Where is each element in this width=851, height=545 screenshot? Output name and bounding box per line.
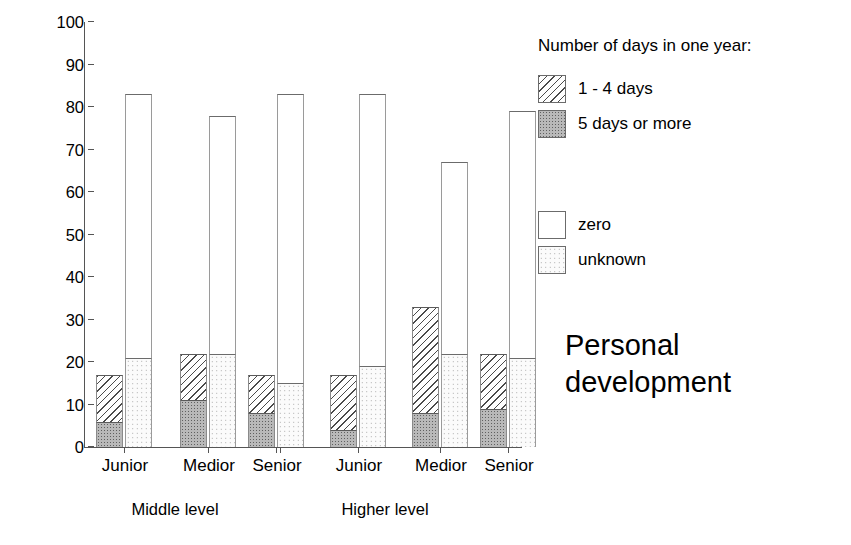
swatch-zero-icon [538,211,566,239]
y-tick-label: 20 [28,357,84,367]
bar-zero-unknown-stack [209,116,236,448]
bar-zero-unknown-stack [359,94,386,447]
segment-unknown [441,354,468,448]
y-tick-label: 100 [28,17,84,27]
x-tick-mark [358,447,359,453]
segment-zero [359,94,386,366]
legend-item-1-4-days: 1 - 4 days [538,75,848,103]
bar-zero-unknown-stack [441,162,468,447]
bar-zero-unknown-stack [277,94,304,447]
x-axis-category-label: Junior [314,456,404,476]
x-tick-mark [276,447,277,453]
bar-zero-unknown-stack [125,94,152,447]
bar-days-stack [96,375,123,447]
legend-label-5-days-or-more: 5 days or more [578,114,691,134]
x-axis-category-label: Senior [232,456,322,476]
legend-item-5-days-or-more: 5 days or more [538,110,848,138]
legend-label-zero: zero [578,215,611,235]
bar-group [96,22,152,447]
segment-zero [509,111,536,358]
segment-unknown [125,358,152,447]
segment-5-days-or-more [96,422,123,448]
bar-group [480,22,536,447]
legend-label-unknown: unknown [578,250,646,270]
bar-zero-unknown-stack [509,111,536,447]
bar-days-stack [480,354,507,448]
bar-days-stack [412,307,439,447]
x-tick-mark [124,447,125,453]
x-axis-group-label: Middle level [90,500,260,519]
segment-1-4-days [180,354,207,401]
y-tick-label: 80 [28,102,84,112]
x-axis-group-label: Higher level [300,500,470,519]
plot-bars [85,22,520,447]
segment-1-4-days [248,375,275,413]
segment-unknown [509,358,536,447]
legend-title: Number of days in one year: [538,36,848,56]
y-tick-label: 40 [28,272,84,282]
bar-group [180,22,236,447]
segment-unknown [359,366,386,447]
segment-1-4-days [412,307,439,413]
y-tick-label: 0 [28,442,84,452]
y-tick-label: 10 [28,400,84,410]
x-tick-mark [208,447,209,453]
legend-item-unknown: unknown [538,246,848,274]
y-tick-label: 50 [28,230,84,240]
y-axis-ticks: 0102030405060708090100 [22,22,84,447]
segment-zero [441,162,468,353]
segment-unknown [209,354,236,448]
chart-page: Percentage 0102030405060708090100 Junior… [0,0,851,545]
y-tick-label: 60 [28,187,84,197]
segment-5-days-or-more [248,413,275,447]
segment-1-4-days [330,375,357,430]
segment-1-4-days [480,354,507,409]
bar-group [412,22,468,447]
y-tick-label: 70 [28,145,84,155]
swatch-5-days-or-more-icon [538,110,566,138]
swatch-unknown-icon [538,246,566,274]
y-tick-label: 90 [28,60,84,70]
x-tick-mark [508,447,509,453]
y-tick-label: 30 [28,315,84,325]
swatch-1-4-days-icon [538,75,566,103]
legend-item-zero: zero [538,211,848,239]
segment-zero [125,94,152,358]
x-tick-mark [440,447,441,453]
bar-group [248,22,304,447]
segment-1-4-days [96,375,123,422]
segment-5-days-or-more [412,413,439,447]
chart-title: Personal development [565,327,845,401]
segment-zero [277,94,304,383]
bar-days-stack [180,354,207,448]
x-axis-line [84,447,522,448]
x-axis-category-label: Junior [80,456,170,476]
bar-days-stack [330,375,357,447]
legend-days: Number of days in one year: 1 - 4 days 5… [538,36,848,145]
legend-zero-unknown: zero unknown [538,211,848,281]
x-tick-mark [280,447,281,453]
bar-group [330,22,386,447]
bar-days-stack [248,375,275,447]
segment-5-days-or-more [180,400,207,447]
segment-zero [209,116,236,354]
segment-5-days-or-more [480,409,507,447]
segment-unknown [277,383,304,447]
legend-label-1-4-days: 1 - 4 days [578,79,653,99]
segment-5-days-or-more [330,430,357,447]
x-axis-category-label: Senior [464,456,554,476]
